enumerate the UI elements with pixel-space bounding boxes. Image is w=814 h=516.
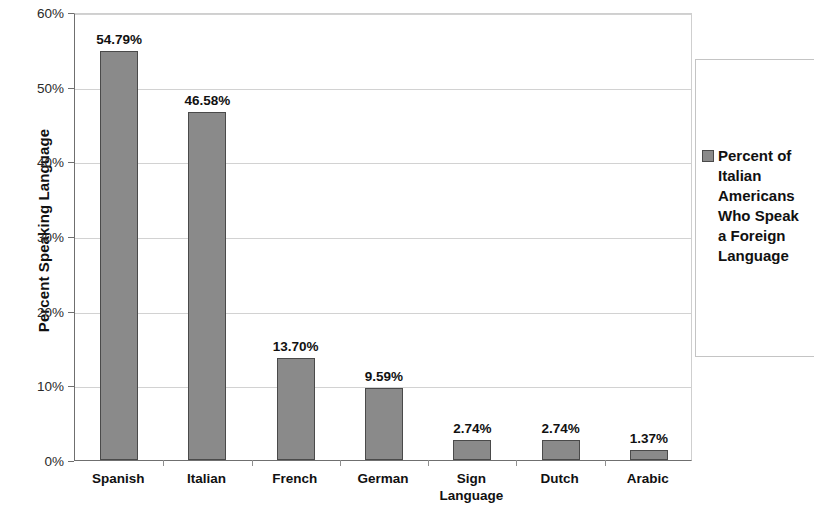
x-axis-labels: SpanishItalianFrenchGermanSign LanguageD… xyxy=(74,470,692,516)
y-axis-tick-label: 40% xyxy=(4,155,64,170)
bar[interactable] xyxy=(542,440,580,460)
bar-slot: 54.79% xyxy=(75,14,163,460)
bar-value-label: 13.70% xyxy=(273,339,319,354)
x-axis-tick-mark xyxy=(605,460,606,466)
x-axis-label: Sign Language xyxy=(427,470,515,504)
bar[interactable] xyxy=(188,112,226,460)
bar-slot: 1.37% xyxy=(605,14,693,460)
y-axis-tick-mark xyxy=(68,312,74,313)
y-axis-tick-mark xyxy=(68,237,74,238)
x-axis-tick-mark xyxy=(340,460,341,466)
y-axis-tick-mark xyxy=(68,88,74,89)
bar-value-label: 46.58% xyxy=(185,93,231,108)
y-axis-tick-mark xyxy=(68,461,74,462)
bar[interactable] xyxy=(630,450,668,460)
legend-swatch-icon xyxy=(702,150,714,162)
bar-slot: 13.70% xyxy=(252,14,340,460)
x-axis-tick-mark xyxy=(163,460,164,466)
x-axis-label: French xyxy=(251,470,339,487)
x-axis-label: German xyxy=(339,470,427,487)
y-axis-tick-label: 0% xyxy=(4,454,64,469)
legend: Percent of Italian Americans Who Speak a… xyxy=(695,59,814,357)
legend-label: Percent of Italian Americans Who Speak a… xyxy=(718,146,814,266)
bar-slot: 46.58% xyxy=(163,14,251,460)
bar-slot: 2.74% xyxy=(516,14,604,460)
y-axis-tick-label: 60% xyxy=(4,6,64,21)
bar[interactable] xyxy=(277,358,315,460)
y-axis-tick-mark xyxy=(68,162,74,163)
x-axis-label: Italian xyxy=(162,470,250,487)
x-axis-label: Arabic xyxy=(604,470,692,487)
bar-value-label: 54.79% xyxy=(96,32,142,47)
bar[interactable] xyxy=(365,388,403,460)
y-axis-tick-mark xyxy=(68,13,74,14)
bar-value-label: 9.59% xyxy=(365,369,403,384)
bar[interactable] xyxy=(453,440,491,460)
bar-slot: 2.74% xyxy=(428,14,516,460)
bar-slot: 9.59% xyxy=(340,14,428,460)
bar[interactable] xyxy=(100,51,138,460)
x-axis-label: Spanish xyxy=(74,470,162,487)
bar-value-label: 2.74% xyxy=(541,421,579,436)
plot-area: 54.79%46.58%13.70%9.59%2.74%2.74%1.37% xyxy=(74,13,692,461)
legend-entry: Percent of Italian Americans Who Speak a… xyxy=(702,146,814,266)
y-axis-tick-mark xyxy=(68,386,74,387)
x-axis-label: Dutch xyxy=(515,470,603,487)
y-axis-tick-label: 50% xyxy=(4,80,64,95)
y-axis-tick-label: 20% xyxy=(4,304,64,319)
bar-value-label: 2.74% xyxy=(453,421,491,436)
bar-value-label: 1.37% xyxy=(630,431,668,446)
y-axis-tick-label: 30% xyxy=(4,230,64,245)
bar-chart: Percent Speaking Language 54.79%46.58%13… xyxy=(0,0,814,516)
x-axis-tick-mark xyxy=(428,460,429,466)
x-axis-tick-mark xyxy=(516,460,517,466)
x-axis-tick-mark xyxy=(252,460,253,466)
y-axis-tick-label: 10% xyxy=(4,379,64,394)
